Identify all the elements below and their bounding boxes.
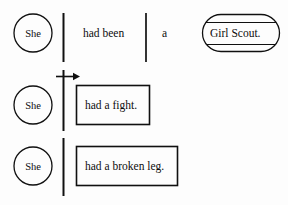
predicate-label-row-2: had a fight. bbox=[85, 100, 137, 112]
subject-label-row-2: She bbox=[14, 101, 52, 112]
article-label-row-1: a bbox=[162, 28, 167, 40]
subject-label-row-1: She bbox=[14, 29, 52, 40]
insertion-arrow-head-icon bbox=[73, 73, 80, 80]
predicate-label-row-3: had a broken leg. bbox=[85, 161, 164, 173]
complement-label-row-1: Girl Scout. bbox=[210, 28, 260, 40]
predicate-label-row-1: had been bbox=[83, 28, 124, 40]
sentence-diagram-figure: She had been a Girl Scout. She had a fig… bbox=[0, 0, 288, 205]
subject-label-row-3: She bbox=[14, 162, 52, 173]
